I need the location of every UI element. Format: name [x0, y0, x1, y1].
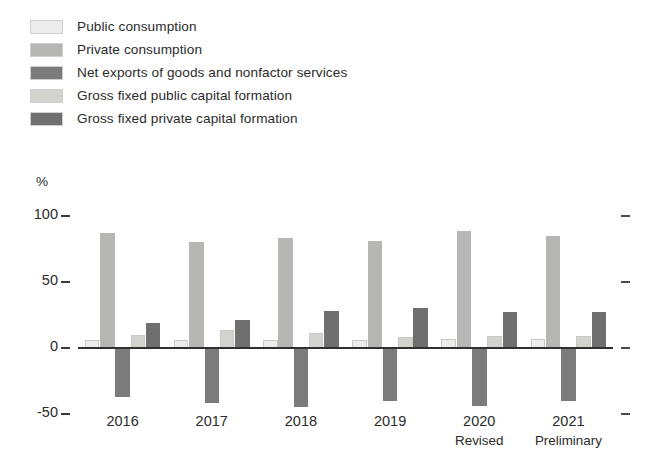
bar	[457, 231, 472, 348]
y-axis-tick-mark	[61, 281, 70, 283]
bar	[205, 348, 220, 403]
y-axis-tick-label: 0	[0, 338, 58, 354]
bar	[189, 242, 204, 348]
bar	[472, 348, 487, 406]
chart-figure: Public consumptionPrivate consumptionNet…	[0, 0, 659, 459]
y-axis-tick-label: -50	[0, 404, 58, 420]
bar	[278, 238, 293, 348]
zero-baseline	[78, 347, 613, 349]
y-axis-tick-mark-right	[621, 215, 630, 217]
y-axis-tick-mark-right	[621, 281, 630, 283]
bar	[546, 236, 561, 348]
bar	[131, 335, 146, 348]
bar	[220, 330, 235, 348]
bar	[383, 348, 398, 401]
y-axis-tick-label: 100	[0, 206, 58, 222]
bar	[100, 233, 115, 348]
x-axis-tick-label: 2021Preliminary	[508, 413, 628, 448]
x-axis-sublabel: Preliminary	[508, 433, 628, 448]
y-axis-tick-mark	[61, 215, 70, 217]
bar	[309, 333, 324, 348]
x-axis-year: 2021	[508, 413, 628, 429]
bars-layer	[0, 0, 659, 459]
bar	[146, 323, 161, 348]
plot-area: % 100500-50 20162017201820192020Revised2…	[0, 0, 659, 459]
bar	[561, 348, 576, 401]
y-axis-tick-label: 50	[0, 272, 58, 288]
bar	[235, 320, 250, 348]
bar	[503, 312, 518, 348]
bar	[368, 241, 383, 348]
y-axis-tick-mark-right	[621, 347, 630, 349]
bar	[413, 308, 428, 348]
y-axis-tick-mark	[61, 347, 70, 349]
bar	[324, 311, 339, 348]
bar	[592, 312, 607, 348]
bar	[294, 348, 309, 407]
bar	[115, 348, 130, 397]
